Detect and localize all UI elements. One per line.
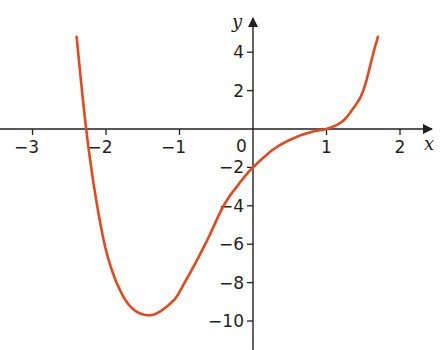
axes: −3−2−112 42−2−4−6−8−10 x y 0 — [0, 11, 434, 350]
x-tick-label: −2 — [87, 137, 112, 157]
x-ticks: −3−2−112 — [14, 129, 405, 157]
y-ticks: 42−2−4−6−8−10 — [208, 42, 253, 331]
y-tick-label: −8 — [219, 273, 244, 293]
y-tick-label: 2 — [233, 81, 244, 101]
y-tick-label: −2 — [219, 157, 244, 177]
y-tick-label: −6 — [219, 234, 244, 254]
function-graph: −3−2−112 42−2−4−6−8−10 x y 0 — [0, 0, 440, 350]
x-tick-label: 2 — [395, 137, 406, 157]
y-tick-label: 4 — [233, 42, 244, 62]
y-axis-label: y — [231, 11, 243, 32]
y-tick-label: −10 — [208, 311, 244, 331]
x-axis-label: x — [424, 133, 434, 154]
origin-label: 0 — [236, 136, 247, 156]
x-tick-label: −1 — [161, 137, 186, 157]
x-tick-label: 1 — [321, 137, 332, 157]
x-tick-label: −3 — [14, 137, 39, 157]
